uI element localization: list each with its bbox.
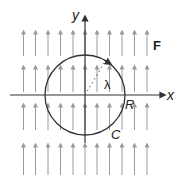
x-axis-label: x — [166, 87, 175, 103]
y-axis-label: y — [71, 7, 80, 23]
curve-label: C — [111, 127, 121, 142]
radius-label: R — [125, 97, 134, 112]
field-label: F — [153, 38, 161, 53]
orientation-arrow-icon — [105, 60, 110, 63]
angle-label: λ — [104, 77, 111, 92]
radius-line — [85, 63, 104, 95]
vector-field-diagram: x y F R C λ — [0, 0, 183, 178]
